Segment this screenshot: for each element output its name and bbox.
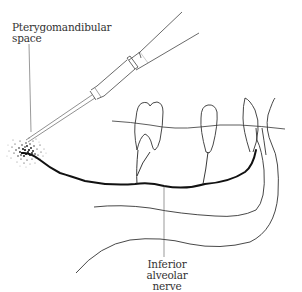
pterygomandibular-space-label: Pterygomandibular space xyxy=(12,22,111,44)
inferior-alveolar-nerve-label: Inferior alveolar nerve xyxy=(126,259,208,292)
gum-line xyxy=(112,121,285,129)
mandible-outline xyxy=(76,98,278,273)
inferior-alveolar-label-line1: Inferior alveolar xyxy=(126,259,208,281)
inferior-alveolar-nerve xyxy=(22,150,256,188)
nerve-branches xyxy=(137,150,208,184)
tooth-2-icon xyxy=(201,105,217,153)
tooth-1-icon xyxy=(135,102,163,150)
inferior-alveolar-label-line2: nerve xyxy=(126,281,208,292)
pterygomandibular-leader-line xyxy=(29,44,31,132)
pterygomandibular-label-line2: space xyxy=(12,33,111,44)
